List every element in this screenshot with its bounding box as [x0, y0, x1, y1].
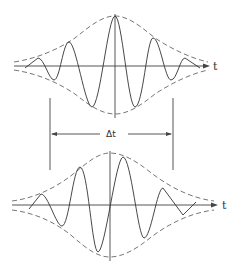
delta-t-marker: Δt	[50, 98, 173, 170]
delta-t-right-arrow-icon	[166, 132, 172, 136]
wave-packet-diagram: t Δt t	[0, 0, 238, 272]
top-axis-label: t	[213, 60, 218, 73]
bottom-axis-label: t	[222, 199, 227, 212]
bottom-wave-packet: t	[12, 151, 227, 261]
delta-t-label: Δt	[106, 129, 116, 139]
top-axis-arrow-icon	[203, 64, 210, 69]
top-carrier-wave	[25, 16, 200, 107]
delta-t-left-arrow-icon	[51, 132, 57, 136]
bottom-axis-arrow-icon	[211, 203, 218, 208]
top-envelope-lower	[14, 70, 208, 114]
bottom-envelope-lower	[12, 210, 214, 257]
top-wave-packet: t	[14, 14, 218, 118]
